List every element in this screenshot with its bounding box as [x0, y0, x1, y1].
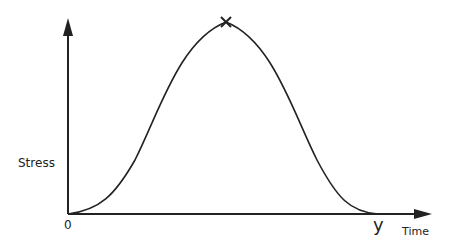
- x-axis-label: Time: [402, 225, 429, 238]
- end-time-label: y: [373, 214, 384, 235]
- origin-label: 0: [64, 218, 72, 232]
- x-axis-arrow-icon: [414, 209, 432, 219]
- stress-curve: [68, 22, 378, 214]
- y-axis-arrow-icon: [63, 18, 73, 36]
- y-axis-label: Stress: [18, 156, 55, 170]
- peak-x-marker-icon: [221, 17, 231, 27]
- stress-time-diagram: [0, 0, 451, 248]
